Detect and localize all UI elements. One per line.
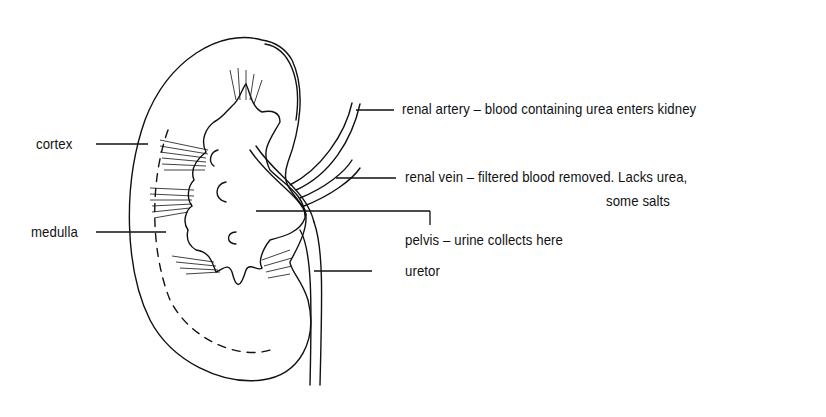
label-renal-vein-continued: some salts [606,192,670,209]
label-medulla: medulla [31,223,78,240]
label-uretor: uretor [405,262,440,279]
renal-vein [300,160,352,198]
kidney-diagram [0,0,826,417]
label-cortex: cortex [36,135,72,152]
label-renal-artery: renal artery – blood containing urea ent… [402,100,696,117]
label-pelvis: pelvis – urine collects here [405,231,563,248]
kidney-outline [129,38,310,381]
pelvis-outline [185,84,305,285]
label-renal-vein: renal vein – filtered blood removed. Lac… [405,168,687,185]
